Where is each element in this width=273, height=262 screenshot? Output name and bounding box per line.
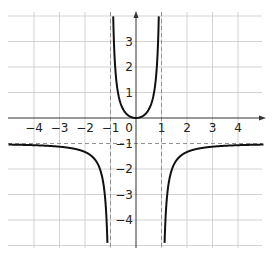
y-tick-label: −3 [115,188,133,202]
x-tick-label: 4 [234,121,242,135]
function-plot: −4−3−2−101234123−1−2−3−4 [0,0,273,262]
x-tick-label: 2 [183,121,191,135]
curve-right-branch [165,145,264,243]
y-tick-label: −4 [115,213,133,227]
tick-labels: −4−3−2−101234123−1−2−3−4 [25,35,242,228]
x-tick-label: 3 [209,121,217,135]
grid-lines [8,12,262,248]
y-tick-label: 2 [125,60,133,74]
x-tick-label: 1 [158,121,166,135]
axes [8,11,266,248]
x-tick-label: −4 [25,121,43,135]
x-tick-label: 0 [125,121,133,135]
y-axis-arrow-icon [134,11,139,18]
asymptote-lines [8,12,262,248]
x-axis-arrow-icon [259,116,266,121]
y-tick-label: 3 [125,35,133,49]
y-tick-label: −1 [115,137,133,151]
x-tick-label: −2 [76,121,94,135]
curve-left-branch [9,145,108,243]
y-tick-label: 1 [125,86,133,100]
x-tick-label: −3 [51,121,69,135]
x-tick-label: −1 [102,121,120,135]
y-tick-label: −2 [115,162,133,176]
